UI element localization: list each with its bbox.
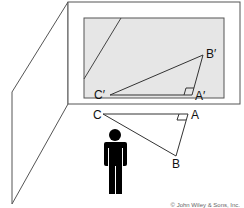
- projection-screen: [84, 18, 224, 98]
- diagram-canvas: B′ C′ A′ C A B: [0, 0, 244, 208]
- original-right-angle-mark: [177, 114, 186, 120]
- label-a-prime: A′: [195, 89, 206, 103]
- label-c-prime: C′: [94, 88, 106, 102]
- person-icon: [104, 129, 127, 194]
- label-b-prime: B′: [206, 47, 217, 61]
- label-a: A: [191, 108, 199, 122]
- left-wall: [12, 2, 68, 204]
- label-c: C: [93, 108, 102, 122]
- label-b: B: [172, 157, 180, 171]
- copyright-text: © John Wiley & Sons, Inc.: [171, 202, 240, 208]
